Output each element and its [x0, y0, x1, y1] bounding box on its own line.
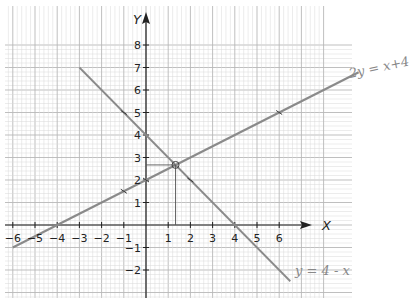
x-tick-label: 1	[165, 232, 172, 245]
y-tick-label: 3	[134, 152, 141, 165]
y-tick-label: 6	[134, 84, 141, 97]
line1-annotation: 2y = x+4	[347, 54, 411, 82]
x-tick-label: −6	[5, 232, 21, 245]
x-tick-label: −2	[93, 232, 109, 245]
y-tick-label: 4	[134, 129, 141, 142]
graph-paper-chart: −6−5−4−3−2−1123456−2−112345678 X Y 2y = …	[0, 0, 414, 298]
y-tick-label: −2	[125, 264, 141, 277]
x-tick-label: 2	[187, 232, 194, 245]
grid	[5, 6, 352, 298]
y-tick-label: 1	[134, 197, 141, 210]
x-tick-label: −5	[27, 232, 43, 245]
x-tick-label: −3	[71, 232, 87, 245]
y-tick-label: −1	[125, 242, 141, 255]
y-tick-label: 7	[134, 62, 141, 75]
y-tick-label: 5	[134, 107, 141, 120]
line2-annotation: y = 4 - x	[294, 263, 350, 278]
x-tick-label: 6	[276, 232, 283, 245]
y-tick-label: 8	[134, 39, 141, 52]
y-axis-label: Y	[133, 12, 142, 27]
x-axis-label: X	[321, 218, 332, 233]
x-tick-label: 5	[254, 232, 261, 245]
x-tick-label: 3	[209, 232, 216, 245]
line-y-eq-4-minus-x	[79, 68, 290, 282]
y-tick-label: 2	[134, 174, 141, 187]
x-tick-label: −4	[49, 232, 65, 245]
x-tick-label: 4	[231, 232, 238, 245]
